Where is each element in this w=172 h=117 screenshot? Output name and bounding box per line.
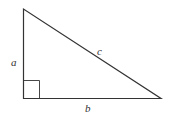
label-side-a: a (11, 56, 17, 68)
label-side-c: c (97, 45, 102, 57)
triangle-outline (24, 9, 162, 99)
right-angle-marker (24, 81, 40, 99)
right-triangle-diagram: a c b (0, 0, 172, 117)
label-side-b: b (85, 102, 91, 114)
triangle-figure: a c b (0, 0, 172, 117)
